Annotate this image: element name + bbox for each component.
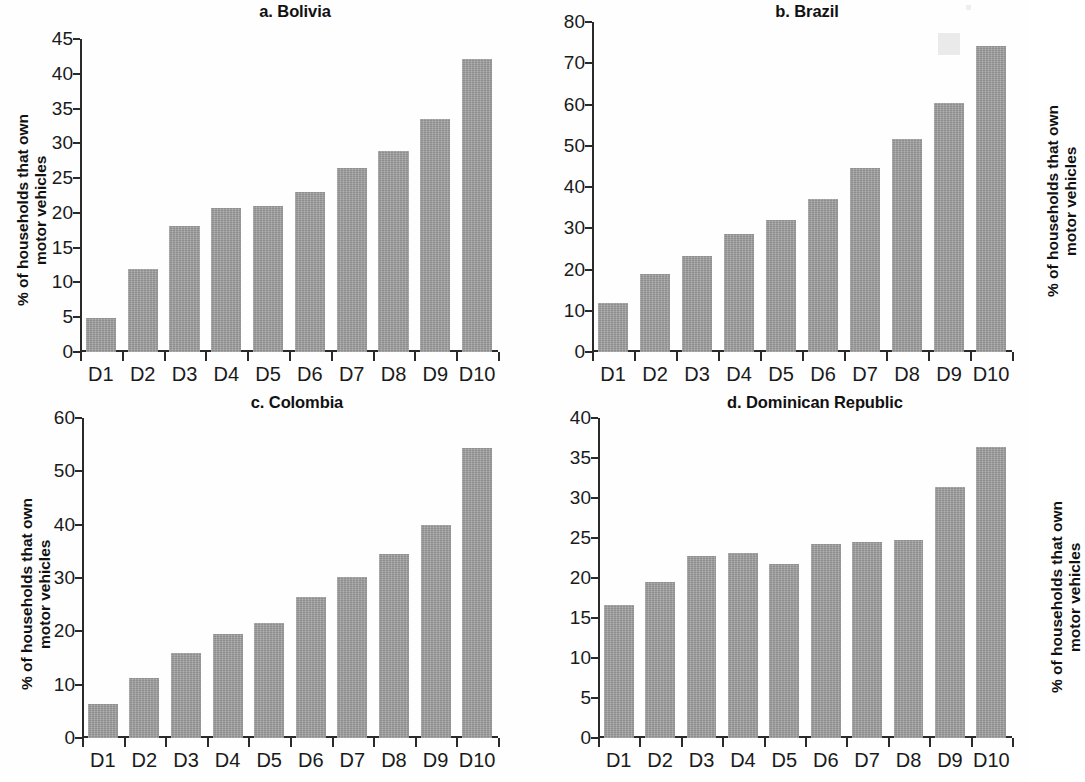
y-tick-mark xyxy=(591,617,598,619)
bar-slot xyxy=(122,39,164,352)
bar xyxy=(211,208,241,352)
bar-slot xyxy=(332,418,374,738)
x-tick-label: D3 xyxy=(681,749,722,772)
bar xyxy=(88,704,118,738)
x-tick-label: D7 xyxy=(331,363,373,386)
x-tick-label: D8 xyxy=(373,363,415,386)
y-tick-mark xyxy=(585,351,592,353)
panel-title-colombia: c. Colombia xyxy=(0,393,554,412)
x-tick-mark xyxy=(805,738,807,747)
panel-title-brazil: b. Brazil xyxy=(514,2,1064,21)
y-axis-label-colombia: % of households that own motor vehicles xyxy=(18,479,55,709)
y-axis-label-line2: motor vehicles xyxy=(32,96,50,324)
x-tick-label: D5 xyxy=(248,749,290,772)
x-tick-mark xyxy=(929,738,931,747)
x-tick-mark xyxy=(1012,352,1014,361)
y-tick-mark xyxy=(75,684,82,686)
y-tick-mark xyxy=(75,577,82,579)
bar xyxy=(253,206,283,352)
y-tick-mark xyxy=(75,630,82,632)
bar-slot xyxy=(598,418,639,738)
bar xyxy=(254,623,284,738)
bar-slot xyxy=(80,39,122,352)
y-tick-label: 5 xyxy=(62,306,80,328)
y-tick-label: 10 xyxy=(52,271,80,293)
bar-slot xyxy=(844,22,886,352)
bar xyxy=(976,447,1006,738)
x-tick-label: D2 xyxy=(634,363,676,386)
bar-slot xyxy=(373,39,415,352)
y-tick-mark xyxy=(591,737,598,739)
bar xyxy=(598,303,628,353)
y-tick-mark xyxy=(591,497,598,499)
bar-slot xyxy=(290,418,332,738)
x-tick-label: D6 xyxy=(290,749,332,772)
bar xyxy=(687,556,717,738)
y-tick-label: 35 xyxy=(570,447,598,469)
y-axis-label-dominican-republic: % of households that own motor vehicles xyxy=(1048,483,1085,711)
x-tick-mark xyxy=(164,352,166,361)
x-tick-label: D9 xyxy=(415,749,457,772)
bar xyxy=(724,234,754,352)
x-tick-label: D9 xyxy=(929,749,970,772)
bar-slot xyxy=(289,39,331,352)
y-tick-mark xyxy=(591,537,598,539)
y-tick-mark xyxy=(73,108,80,110)
y-tick-label: 25 xyxy=(570,527,598,549)
bar-slot xyxy=(802,22,844,352)
bar xyxy=(337,577,367,738)
y-tick-mark xyxy=(591,417,598,419)
y-tick-label: 15 xyxy=(570,607,598,629)
y-tick-label: 0 xyxy=(580,727,598,749)
x-tick-label: D8 xyxy=(888,749,929,772)
y-tick-mark xyxy=(73,316,80,318)
bar xyxy=(604,605,634,738)
x-tick-mark xyxy=(676,352,678,361)
x-label-group: D1D2D3D4D5D6D7D8D9D10 xyxy=(592,363,1012,386)
x-tick-mark xyxy=(289,352,291,361)
bar xyxy=(934,103,964,352)
y-tick-mark xyxy=(585,269,592,271)
y-tick-label: 50 xyxy=(564,135,592,157)
y-tick-mark xyxy=(73,142,80,144)
y-tick-label: 40 xyxy=(564,176,592,198)
y-tick-mark xyxy=(585,227,592,229)
x-tick-mark xyxy=(971,738,973,747)
y-tick-mark xyxy=(73,212,80,214)
bar-slot xyxy=(414,39,456,352)
x-tick-mark xyxy=(247,352,249,361)
x-tick-label: D9 xyxy=(414,363,456,386)
y-tick-label: 5 xyxy=(580,687,598,709)
x-tick-label: D3 xyxy=(165,749,207,772)
bar xyxy=(86,318,116,352)
bar-slot xyxy=(888,418,929,738)
bars-group xyxy=(82,418,498,738)
x-tick-mark xyxy=(802,352,804,361)
y-tick-mark xyxy=(585,104,592,106)
panel-title-bolivia: a. Bolivia xyxy=(0,2,552,21)
y-tick-label: 0 xyxy=(62,341,80,363)
x-tick-mark xyxy=(1012,738,1014,747)
y-tick-label: 20 xyxy=(564,259,592,281)
bar xyxy=(728,553,758,738)
chart-panel-bolivia: a. Bolivia % of households that own moto… xyxy=(0,0,514,391)
x-tick-mark xyxy=(886,352,888,361)
y-tick-mark xyxy=(591,657,598,659)
x-tick-mark xyxy=(844,352,846,361)
x-tick-mark xyxy=(456,738,458,747)
bar xyxy=(808,199,838,352)
x-tick-mark xyxy=(456,352,458,361)
x-tick-mark xyxy=(639,738,641,747)
bar xyxy=(811,544,841,738)
bar xyxy=(850,168,880,352)
bar xyxy=(892,139,922,352)
x-tick-mark xyxy=(928,352,930,361)
bar-slot xyxy=(639,418,680,738)
x-tick-label: D2 xyxy=(124,749,166,772)
bar xyxy=(129,678,159,738)
bar xyxy=(421,525,451,738)
bar xyxy=(894,540,924,738)
y-tick-label: 10 xyxy=(564,300,592,322)
bar-slot xyxy=(82,418,124,738)
